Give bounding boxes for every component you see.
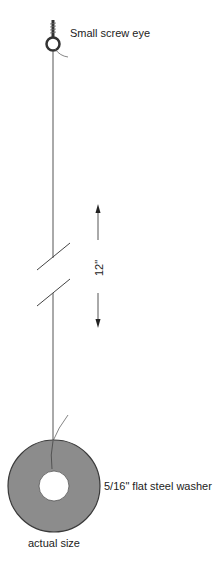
dimension-arrow-down-icon (96, 293, 101, 328)
pendulum-diagram (0, 0, 221, 561)
dimension-label: 12" (93, 260, 105, 276)
screw-eye-icon (47, 20, 69, 57)
washer-icon (8, 440, 100, 532)
actual-size-label: actual size (28, 537, 80, 549)
screw-eye-label: Small screw eye (70, 27, 150, 39)
dimension-arrow-up-icon (96, 204, 101, 240)
washer-label: 5/16" flat steel washer (104, 480, 212, 492)
